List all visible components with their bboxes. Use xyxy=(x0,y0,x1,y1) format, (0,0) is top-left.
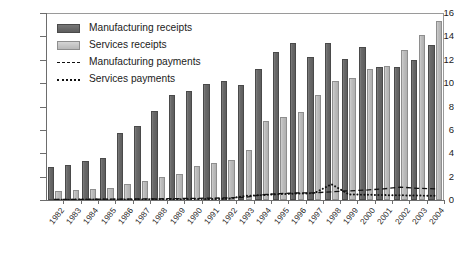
bar-manufacturing-receipts xyxy=(48,167,54,200)
bar-manufacturing-receipts xyxy=(290,43,296,200)
x-tick-label: 1983 xyxy=(64,206,83,226)
x-tick-label: 1987 xyxy=(134,206,153,226)
legend-label-manufacturing-payments: Manufacturing payments xyxy=(89,57,201,67)
bar-manufacturing-receipts xyxy=(255,69,261,200)
x-tick-label: 2003 xyxy=(411,206,430,226)
legend-swatch-manufacturing-receipts-icon xyxy=(57,24,80,33)
legend-item-manufacturing-payments: Manufacturing payments xyxy=(57,54,201,71)
bar-manufacturing-receipts xyxy=(169,95,175,200)
bar-manufacturing-receipts xyxy=(342,59,348,200)
bar-services-receipts xyxy=(315,95,321,200)
x-tick-label: 1991 xyxy=(203,206,222,226)
x-tick-label: 1988 xyxy=(151,206,170,226)
x-tick-label: 1993 xyxy=(238,206,257,226)
legend-label-manufacturing-receipts: Manufacturing receipts xyxy=(89,23,192,33)
bar-manufacturing-receipts xyxy=(82,161,88,200)
x-tick-label: 1986 xyxy=(116,206,135,226)
bar-manufacturing-receipts xyxy=(238,85,244,200)
x-tick-label: 1989 xyxy=(168,206,187,226)
bar-manufacturing-receipts xyxy=(117,133,123,200)
bar-manufacturing-receipts xyxy=(134,126,140,200)
bar-services-receipts xyxy=(263,121,269,200)
x-tick-label: 2002 xyxy=(393,206,412,226)
legend-item-manufacturing-receipts: Manufacturing receipts xyxy=(57,20,201,37)
bar-services-receipts xyxy=(349,78,355,200)
bar-manufacturing-receipts xyxy=(376,67,382,200)
x-tick-mark xyxy=(444,200,445,204)
legend-swatch-services-receipts-icon xyxy=(57,41,80,50)
legend-label-services-payments: Services payments xyxy=(89,74,175,84)
bar-manufacturing-receipts xyxy=(273,52,279,200)
bar-manufacturing-receipts xyxy=(100,158,106,200)
legend-dotted-line-icon xyxy=(57,75,80,84)
x-tick-label: 1997 xyxy=(307,206,326,226)
x-tick-label: 1984 xyxy=(82,206,101,226)
legend-item-services-receipts: Services receipts xyxy=(57,37,201,54)
bar-manufacturing-receipts xyxy=(307,57,313,200)
chart-legend: Manufacturing receipts Services receipts… xyxy=(57,20,201,88)
legend-item-services-payments: Services payments xyxy=(57,71,201,88)
bar-manufacturing-receipts xyxy=(428,45,434,200)
bar-services-receipts xyxy=(124,184,130,200)
bar-services-receipts xyxy=(367,69,373,200)
x-tick-label: 1992 xyxy=(220,206,239,226)
bar-services-receipts xyxy=(401,50,407,200)
bar-services-receipts xyxy=(107,188,113,200)
bar-services-receipts xyxy=(159,177,165,200)
bar-manufacturing-receipts xyxy=(411,60,417,200)
bar-manufacturing-receipts xyxy=(151,111,157,200)
x-tick-label: 1994 xyxy=(255,206,274,226)
x-tick-label: 2000 xyxy=(359,206,378,226)
bar-manufacturing-receipts xyxy=(394,67,400,200)
x-tick-label: 1996 xyxy=(289,206,308,226)
bar-services-receipts xyxy=(298,112,304,200)
bar-manufacturing-receipts xyxy=(325,43,331,200)
bar-manufacturing-receipts xyxy=(359,47,365,200)
y-axis-spine xyxy=(46,13,47,201)
x-tick-label: 1999 xyxy=(341,206,360,226)
bar-services-receipts xyxy=(55,191,61,200)
bar-services-receipts xyxy=(280,117,286,200)
bar-services-receipts xyxy=(194,166,200,200)
x-axis-spine xyxy=(46,200,444,201)
bar-services-receipts xyxy=(73,190,79,200)
x-tick-label: 2004 xyxy=(428,206,447,226)
legend-label-services-receipts: Services receipts xyxy=(89,40,167,50)
bar-services-receipts xyxy=(419,35,425,200)
bar-manufacturing-receipts xyxy=(203,84,209,200)
x-tick-label: 1990 xyxy=(186,206,205,226)
bar-services-receipts xyxy=(176,174,182,200)
x-tick-label: 1982 xyxy=(47,206,66,226)
chart-container: 0246810121416 19821983198419851986198719… xyxy=(0,0,454,265)
y-tick-label: 16 xyxy=(420,8,454,18)
bar-services-receipts xyxy=(211,163,217,200)
legend-dashed-line-icon xyxy=(57,58,80,67)
x-tick-label: 1985 xyxy=(99,206,118,226)
bar-manufacturing-receipts xyxy=(221,81,227,200)
bar-services-receipts xyxy=(90,189,96,200)
bar-services-receipts xyxy=(142,181,148,200)
bar-services-receipts xyxy=(436,21,442,200)
bar-manufacturing-receipts xyxy=(186,91,192,200)
bar-services-receipts xyxy=(246,150,252,200)
bar-manufacturing-receipts xyxy=(65,165,71,200)
x-tick-label: 1995 xyxy=(272,206,291,226)
bar-services-receipts xyxy=(384,66,390,200)
bar-services-receipts xyxy=(228,160,234,200)
x-tick-label: 2001 xyxy=(376,206,395,226)
bar-services-receipts xyxy=(332,81,338,200)
x-tick-label: 1998 xyxy=(324,206,343,226)
